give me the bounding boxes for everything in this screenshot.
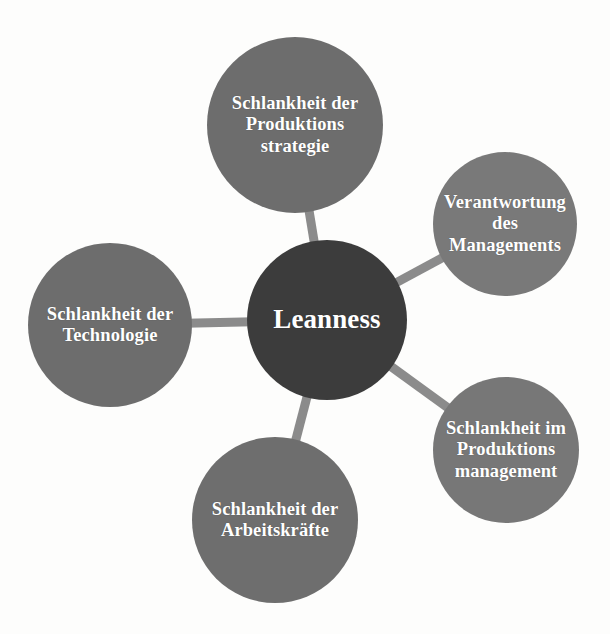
node-leanness-label: Leanness (269, 304, 384, 335)
edge-leanness-arbeitskraefte (294, 392, 308, 446)
node-verantwortung-management-label: Verantwortung des Managements (433, 192, 577, 256)
node-produktionsmanagement-label: Schlankheit im Produktions management (433, 418, 579, 482)
node-produktionsmanagement[interactable]: Schlankheit im Produktions management (433, 377, 579, 523)
node-arbeitskraefte[interactable]: Schlankheit der Arbeitskräfte (192, 437, 358, 603)
diagram-canvas: Schlankheit der Produktions strategie Ve… (0, 0, 610, 634)
edge-leanness-produktionsmanagement (387, 363, 452, 410)
edge-leanness-technologie (186, 322, 253, 324)
node-arbeitskraefte-label: Schlankheit der Arbeitskräfte (192, 499, 358, 542)
node-verantwortung-management[interactable]: Verantwortung des Managements (433, 152, 577, 296)
node-leanness-center[interactable]: Leanness (247, 240, 407, 400)
node-produktionsstrategie[interactable]: Schlankheit der Produktions strategie (207, 37, 383, 213)
node-produktionsstrategie-label: Schlankheit der Produktions strategie (207, 93, 383, 157)
node-technologie-label: Schlankheit der Technologie (28, 304, 192, 347)
node-technologie[interactable]: Schlankheit der Technologie (28, 243, 192, 407)
edge-leanness-verantwortung-management (392, 255, 447, 285)
